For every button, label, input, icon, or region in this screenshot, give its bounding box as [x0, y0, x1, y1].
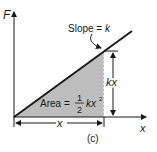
x-axis-label: x: [139, 122, 146, 134]
width-label: x: [56, 117, 63, 129]
y-axis-label: F: [3, 8, 11, 22]
height-label: kx: [106, 76, 118, 88]
figure-caption: (c): [87, 133, 99, 144]
area-label: Area =: [40, 98, 70, 109]
area-frac-numerator: 1: [77, 93, 82, 103]
area-expression: kx: [86, 98, 97, 109]
area-frac-denominator: 2: [77, 105, 82, 115]
slope-leader: [91, 34, 101, 48]
force-displacement-diagram: F x Slope = k kx x Area = 1 2 kx 2 (c): [0, 0, 157, 152]
slope-label: Slope = k: [68, 23, 111, 34]
